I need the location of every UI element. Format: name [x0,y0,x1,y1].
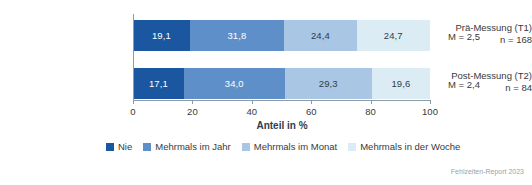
legend-label: Mehrmals in der Woche [360,141,460,152]
bar-segment-mehrmals-in-der-woche-t1: 24,7 [357,20,430,51]
legend-label: Mehrmals im Jahr [155,141,231,152]
chart-figure: Prä-Messung (T1) n = 168 Post-Messung (T… [0,0,532,185]
legend-item-mehrmals-in-der-woche[interactable]: Mehrmals in der Woche [348,141,460,152]
x-tick-100 [430,100,431,104]
legend-swatch-icon [348,143,356,151]
legend-swatch-icon [143,143,151,151]
x-axis-title: Anteil in % [133,120,431,131]
x-tick-0 [133,100,134,104]
bar-segment-mehrmals-im-monat-t2: 29,3 [285,68,372,99]
bar-row-t1: 19,1 31,8 24,4 24,7 [133,20,430,51]
bar-segment-mehrmals-im-monat-t1: 24,4 [284,20,356,51]
legend-item-nie[interactable]: Nie [106,141,132,152]
legend-label: Nie [118,141,132,152]
x-tick-label-20: 20 [187,106,198,117]
x-tick-label-60: 60 [306,106,317,117]
mean-label-t1: M = 2,5 [448,31,480,42]
x-tick-label-0: 0 [130,106,135,117]
bar-segment-nie-t2: 17,1 [133,68,184,99]
x-tick-20 [192,100,193,104]
source-note: Fehlzeiten-Report 2023 [451,168,524,175]
legend-item-mehrmals-im-jahr[interactable]: Mehrmals im Jahr [143,141,231,152]
x-tick-label-40: 40 [247,106,258,117]
bar-segment-nie-t1: 19,1 [133,20,190,51]
mean-label-t2: M = 2,4 [448,79,480,90]
x-tick-40 [252,100,253,104]
legend-swatch-icon [106,143,114,151]
bar-segment-mehrmals-im-jahr-t2: 34,0 [184,68,285,99]
plot-area: 19,1 31,8 24,4 24,7 17,1 34,0 29,3 19,6 [133,14,430,100]
x-tick-label-100: 100 [422,106,438,117]
bar-segment-mehrmals-in-der-woche-t2: 19,6 [372,68,430,99]
x-tick-label-80: 80 [365,106,376,117]
bar-row-t2: 17,1 34,0 29,3 19,6 [133,68,430,99]
x-tick-80 [371,100,372,104]
legend-item-mehrmals-im-monat[interactable]: Mehrmals im Monat [242,141,337,152]
legend-label: Mehrmals im Monat [254,141,337,152]
x-axis-line [133,100,431,101]
chart-legend: NieMehrmals im JahrMehrmals im MonatMehr… [106,141,436,152]
bar-segment-mehrmals-im-jahr-t1: 31,8 [190,20,284,51]
y-axis-line [133,14,134,100]
legend-swatch-icon [242,143,250,151]
x-tick-60 [311,100,312,104]
